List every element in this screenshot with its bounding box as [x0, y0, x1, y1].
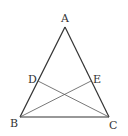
segment-BE	[20, 81, 91, 117]
segment-AB	[20, 27, 65, 117]
label-C: C	[109, 119, 117, 132]
triangle-diagram: A B C D E	[0, 0, 128, 136]
segment-DC	[38, 81, 109, 117]
label-B: B	[10, 117, 18, 130]
label-A: A	[60, 12, 70, 25]
label-E: E	[93, 73, 101, 86]
label-D: D	[28, 73, 37, 86]
triangle-sides	[20, 27, 109, 117]
cevians	[20, 81, 109, 117]
segment-AC	[65, 27, 109, 117]
